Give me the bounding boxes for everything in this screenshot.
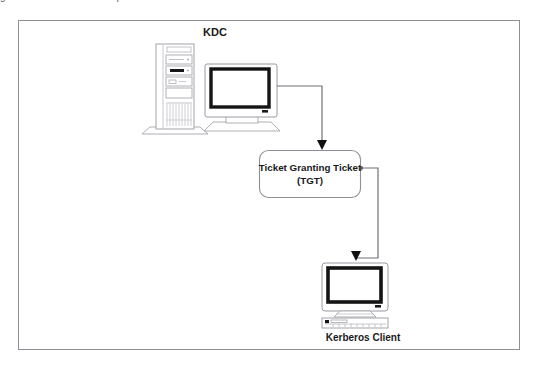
tgt-label-line1: Ticket Granting Ticket xyxy=(259,162,362,173)
kerberos-client-computer xyxy=(322,263,388,328)
diagram-canvas: KDC xyxy=(0,0,541,365)
kdc-label: KDC xyxy=(203,26,227,38)
kerberos-client-label: Kerberos Client xyxy=(326,332,401,343)
tgt-label-line2: (TGT) xyxy=(297,175,323,186)
tgt-box: Ticket Granting Ticket (TGT) xyxy=(259,151,362,198)
